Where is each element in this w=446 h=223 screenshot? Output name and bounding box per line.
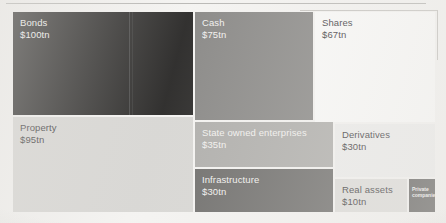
treemap-chart: Bonds $100tn Property $95tn Cash $75tn S… [0,0,446,223]
scan-seam-artifact [129,12,130,115]
secondary-divider-rule [300,10,438,11]
treemap-cell-cash[interactable]: Cash $75tn [195,12,313,120]
treemap-cell-bonds[interactable]: Bonds $100tn [13,12,193,115]
treemap-cell-value: $75tn [202,29,226,42]
top-divider-rule [6,3,426,4]
treemap-cell-label: State owned enterprises [202,127,307,140]
treemap-cell-label: Property [20,122,57,135]
treemap-cell-label: Private companies [412,186,434,198]
treemap-cell-value: $95tn [20,134,44,147]
treemap-cell-value: $30tn [202,186,226,199]
treemap-cell-label: Derivatives [342,129,390,142]
treemap-cell-value: $30tn [342,141,366,154]
treemap-cell-private-companies[interactable]: Private companies [409,179,435,212]
scan-seam-artifact-secondary [132,12,133,115]
treemap-cell-value: $10tn [342,196,366,209]
treemap-cell-infrastructure[interactable]: Infrastructure $30tn [195,169,333,212]
treemap-cell-value: $35tn [202,139,226,152]
treemap-cell-label: Cash [202,17,225,30]
treemap-cell-derivatives[interactable]: Derivatives $30tn [335,124,435,177]
treemap-cell-real-assets[interactable]: Real assets $10tn [335,179,407,212]
treemap-cell-value: $100tn [20,29,50,42]
treemap-cell-label: Real assets [342,184,393,197]
treemap-cell-shares[interactable]: Shares $67tn [315,12,435,122]
treemap-cell-state-owned-enterprises[interactable]: State owned enterprises $35tn [195,122,333,167]
treemap-cell-label: Shares [322,17,353,30]
treemap-cell-value: $67tn [322,29,346,42]
treemap-cell-label: Infrastructure [202,174,259,187]
right-edge-rule [437,10,438,60]
treemap-cell-property[interactable]: Property $95tn [13,117,193,212]
treemap-cell-label: Bonds [20,17,47,30]
